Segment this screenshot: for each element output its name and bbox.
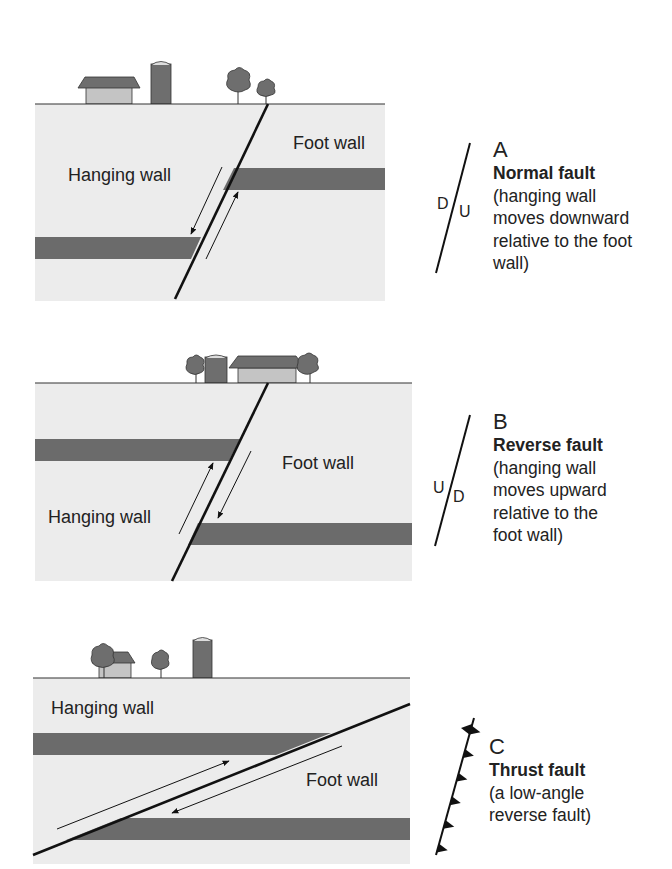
fault-description: (hanging wall moves upward relative to t… — [493, 457, 607, 547]
fault-title: Reverse fault — [493, 434, 607, 457]
fault-side-left-label: D — [437, 195, 449, 213]
hanging-wall-label: Hanging wall — [68, 165, 171, 186]
foot-wall-label: Foot wall — [293, 133, 365, 154]
fault-description: (hanging wall moves downward relative to… — [493, 185, 632, 275]
caption-normal-fault: A Normal fault (hanging wall moves downw… — [493, 138, 632, 275]
thrust-tooth-icon — [456, 773, 467, 782]
panel-letter: C — [489, 735, 591, 759]
caption-thrust-fault: C Thrust fault (a low-angle reverse faul… — [489, 735, 591, 827]
fault-title: Thrust fault — [489, 759, 591, 782]
panel-letter: A — [493, 138, 632, 162]
hanging-wall-label: Hanging wall — [51, 698, 154, 719]
thrust-tooth-icon — [437, 844, 448, 853]
hanging-wall-label: Hanging wall — [48, 507, 151, 528]
fault-side-right-label: D — [453, 488, 465, 506]
fault-title: Normal fault — [493, 162, 632, 185]
thrust-tooth-icon — [469, 726, 480, 735]
panel-letter: B — [493, 410, 607, 434]
foot-wall-label: Foot wall — [282, 453, 354, 474]
thrust-tooth-icon — [450, 797, 461, 806]
thrust-tooth-icon — [443, 820, 454, 829]
caption-reverse-fault: B Reverse fault (hanging wall moves upwa… — [493, 410, 607, 547]
fault-description: (a low-angle reverse fault) — [489, 782, 591, 827]
fault-side-right-label: U — [459, 203, 471, 221]
fault-side-left-label: U — [433, 479, 445, 497]
foot-wall-label: Foot wall — [306, 770, 378, 791]
thrust-tooth-icon — [463, 749, 474, 758]
